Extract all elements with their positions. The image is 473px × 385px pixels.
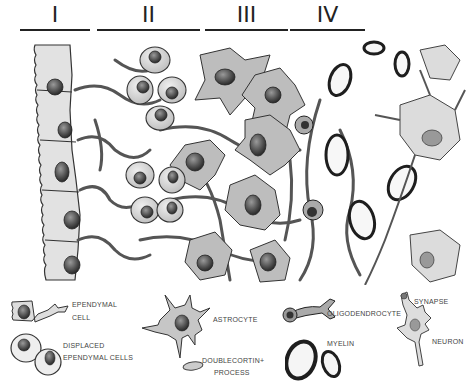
legend-label-myelin: MYELIN <box>327 338 354 350</box>
astrocyte-icon <box>140 290 215 360</box>
legend-label-displaced-line1: DISPLACED <box>63 340 104 352</box>
layer-divider-i <box>20 29 90 31</box>
legend-label-neuron: NEURON <box>432 336 464 348</box>
layer-label-iv: IV <box>290 2 365 27</box>
legend-label-oligodendrocyte: OLIGODENDROCYTE <box>327 308 401 320</box>
layer-divider-ii <box>97 29 200 31</box>
svz-cell-illustration <box>0 35 473 285</box>
legend-label-synapse: SYNAPSE <box>414 296 448 308</box>
layer-divider-iv <box>290 29 365 31</box>
doublecortin-process-icon <box>182 360 204 372</box>
legend-label-ependymal-line1: EPENDYMAL <box>72 299 117 311</box>
layer-label-ii: II <box>97 2 200 27</box>
layer-divider-iii <box>205 29 288 31</box>
displaced-ependymal-cells-icon <box>10 332 62 377</box>
ependymal-cell-icon <box>10 296 72 324</box>
legend-label-astrocyte: ASTROCYTE <box>213 314 258 326</box>
legend-label-displaced-line2: EPENDYMAL CELLS <box>63 352 133 364</box>
legend-label-doublecortin-line2: PROCESS <box>214 367 250 379</box>
legend-label-ependymal-line2: CELL <box>72 312 90 324</box>
legend-label-doublecortin-line1: DOUBLECORTIN+ <box>202 355 264 367</box>
layer-label-i: I <box>20 2 90 27</box>
layer-label-iii: III <box>205 2 288 27</box>
